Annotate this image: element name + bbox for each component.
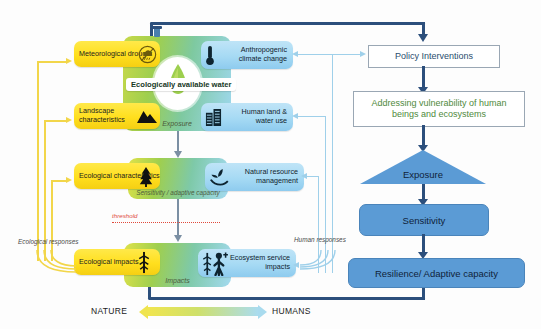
threshold-line: [112, 222, 220, 223]
sensitivity-to-resilience-line: [422, 234, 425, 254]
human-feedback-line-2-h: [296, 116, 326, 117]
human-feedback-curves: [296, 250, 342, 276]
pill-natural-resource-management-label: Natural resource management: [228, 168, 304, 185]
addressing-vulnerability-label: Addressing vulnerability of human beings…: [358, 98, 520, 120]
nature-humans-gradient-bar: [148, 307, 258, 316]
human-feedback-arrow-1: [292, 51, 298, 57]
sensitivity-box[interactable]: Sensitivity: [359, 204, 489, 236]
thermometer-icon: [205, 45, 215, 70]
loop-bottom-horizontal: [148, 297, 425, 300]
policy-interventions-label: Policy Interventions: [395, 51, 473, 62]
no-rain-cloud-icon: [138, 45, 157, 68]
ecological-responses-caption: Ecological responses: [18, 238, 78, 245]
city-buildings-icon: [205, 108, 222, 131]
loop-top-arrowhead: [418, 34, 428, 42]
threshold-label: threshold: [112, 212, 137, 219]
resilience-box[interactable]: Resilience/ Adaptive capacity: [348, 258, 525, 288]
conifer-tree-icon: [138, 166, 154, 191]
human-responses-caption: Human responses: [294, 236, 346, 243]
pill-natural-resource-management[interactable]: Natural resource management: [205, 163, 304, 191]
pill-ecological-characteristics[interactable]: Ecological characteristics: [74, 163, 160, 189]
eco-feedback-arrow-3: [66, 177, 72, 183]
pill-human-land-water-use-label: Human land & water use: [225, 108, 293, 125]
eco-feedback-line-1-v: [37, 61, 39, 261]
diagram-canvas: Exposure Ecologically available water Se…: [0, 0, 541, 329]
damaged-tree-icon: [137, 251, 151, 278]
nature-arrowhead: [139, 305, 148, 319]
mountain-icon: [136, 109, 158, 128]
resilience-box-label: Resilience/ Adaptive capacity: [375, 268, 498, 279]
humans-arrowhead: [258, 305, 267, 319]
climate-to-policy-arrow: [360, 51, 366, 57]
flow-exposure-to-sensitivity: [177, 131, 179, 153]
human-feedback-arrow-into-impacts: [293, 262, 299, 268]
eco-feedback-arrow-2: [66, 117, 72, 123]
eco-feedback-curves: [30, 250, 82, 280]
person-tree-icon: [201, 251, 231, 280]
human-feedback-arrow-3: [301, 173, 307, 179]
pill-ecosystem-service-impacts-label: Ecosystem service impacts: [228, 254, 296, 271]
exposure-triangle-label: Exposure: [360, 169, 486, 180]
flow-arrow-1: [174, 151, 182, 158]
pill-anthropogenic-climate-change-label: Anthropogenic climate change: [221, 46, 293, 63]
human-feedback-line-3-h: [305, 176, 319, 177]
hand-plant-icon: [208, 168, 230, 191]
pill-landscape-characteristics[interactable]: Landscape characteristics: [74, 103, 160, 129]
flow-arrow-2: [174, 235, 182, 242]
pill-ecological-impacts-label: Ecological impacts: [74, 258, 139, 267]
flow-sensitivity-to-impacts: [177, 199, 179, 237]
water-label: Ecologically available water: [126, 78, 236, 91]
pill-ecological-impacts[interactable]: Ecological impacts: [74, 249, 160, 275]
pill-meteorological-drought[interactable]: Meteorological drought: [74, 41, 160, 67]
climate-to-policy-line: [333, 54, 361, 55]
human-feedback-arrow-2: [292, 113, 298, 119]
pill-anthropogenic-climate-change[interactable]: Anthropogenic climate change: [201, 41, 293, 69]
sensitivity-box-label: Sensitivity: [403, 215, 446, 226]
eco-feedback-line-3-v: [51, 180, 53, 261]
loop-top-horizontal: [150, 22, 425, 25]
pill-human-land-water-use[interactable]: Human land & water use: [201, 103, 293, 131]
eco-feedback-line-2-h: [44, 120, 67, 122]
eco-feedback-line-1-h: [37, 61, 67, 63]
eco-feedback-arrow-1: [66, 58, 72, 64]
pill-ecosystem-service-impacts[interactable]: Ecosystem service impacts: [198, 249, 296, 277]
policy-interventions-box[interactable]: Policy Interventions: [368, 45, 500, 68]
addressing-vulnerability-box[interactable]: Addressing vulnerability of human beings…: [353, 91, 525, 127]
humans-label: HUMANS: [272, 306, 311, 316]
human-feedback-line-1-h: [296, 54, 333, 55]
eco-feedback-line-3-h: [51, 180, 67, 182]
nature-label: NATURE: [91, 306, 127, 316]
